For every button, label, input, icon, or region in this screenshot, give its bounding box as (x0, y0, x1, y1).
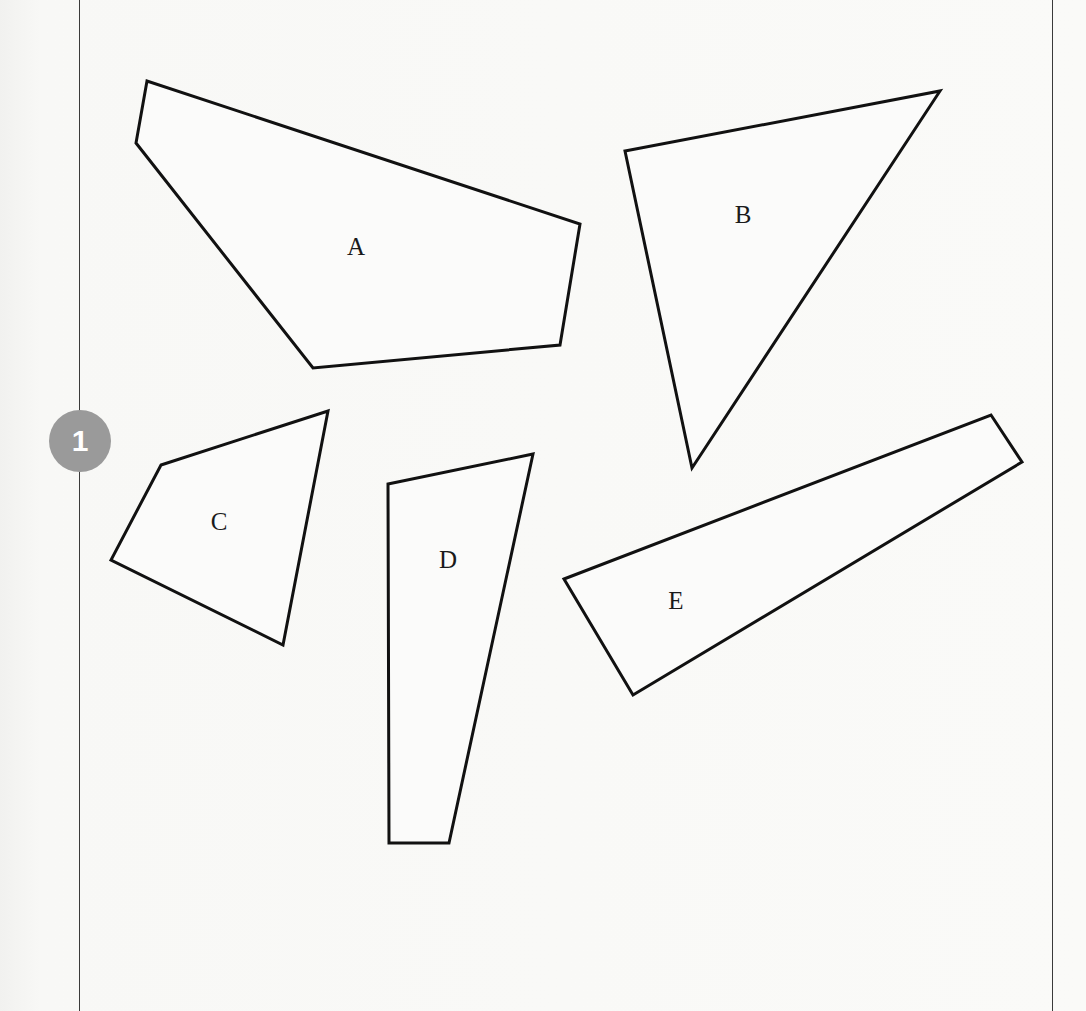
shape-e: E (564, 415, 1022, 695)
shape-label-b: B (735, 201, 752, 228)
polygon-a (136, 81, 580, 368)
shape-label-d: D (439, 546, 457, 573)
shape-d: D (388, 454, 533, 843)
worksheet-page: 1 A B C D E (0, 0, 1086, 1011)
shape-c: C (111, 411, 328, 645)
shape-a: A (136, 81, 580, 368)
polygon-d (388, 454, 533, 843)
shape-label-c: C (211, 508, 228, 535)
polygon-e (564, 415, 1022, 695)
polygon-b (625, 91, 940, 468)
shape-label-e: E (668, 587, 683, 614)
shape-label-a: A (347, 233, 365, 260)
polygons-diagram: A B C D E (0, 0, 1086, 1011)
shape-b: B (625, 91, 940, 468)
